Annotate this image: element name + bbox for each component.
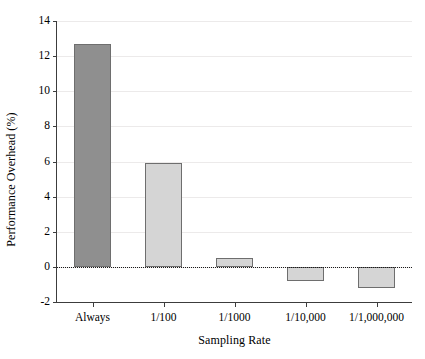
gridline: [57, 21, 412, 22]
x-tick-label: 1/1000: [219, 311, 251, 323]
x-tick-label: Always: [75, 311, 110, 323]
bar[interactable]: [287, 267, 324, 281]
y-tick-label: 8: [10, 121, 50, 133]
y-axis-line: [56, 21, 57, 302]
y-tick-label: 10: [10, 86, 50, 98]
bar[interactable]: [145, 163, 182, 267]
x-tick-mark: [377, 302, 378, 307]
x-tick-mark: [93, 302, 94, 307]
x-tick-label: 1/100: [150, 311, 176, 323]
y-tick-label: 0: [10, 261, 50, 273]
y-tick-label: 12: [10, 50, 50, 62]
x-tick-mark: [306, 302, 307, 307]
bar[interactable]: [358, 267, 395, 288]
plot-area: -202468101214 Always1/1001/10001/10,0001…: [57, 21, 412, 302]
y-tick-label: 6: [10, 156, 50, 168]
x-tick-label: 1/10,000: [285, 311, 326, 323]
y-tick-label: -2: [10, 296, 50, 308]
bar[interactable]: [74, 44, 111, 267]
x-tick-mark: [164, 302, 165, 307]
y-tick-label: 2: [10, 226, 50, 238]
bar[interactable]: [216, 258, 253, 267]
zero-reference-line: [57, 267, 412, 268]
x-tick-label: 1/1,000,000: [349, 311, 404, 323]
y-tick-label: 4: [10, 191, 50, 203]
bar-chart-figure: Performance Overhead (%) -202468101214 A…: [0, 0, 425, 359]
y-tick-label: 14: [10, 15, 50, 27]
x-axis-title: Sampling Rate: [57, 333, 412, 348]
x-tick-mark: [235, 302, 236, 307]
